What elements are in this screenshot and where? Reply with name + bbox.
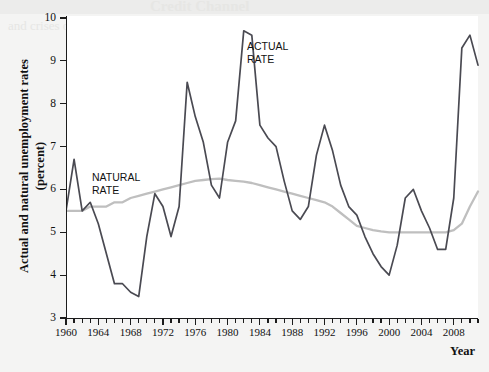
- y-axis-line: [66, 16, 67, 319]
- x-tick-label-1964: 1964: [87, 327, 109, 338]
- x-tick-1986: [275, 319, 276, 323]
- x-tick-1991: [316, 319, 317, 323]
- unemployment-rate-chart: 345678910 196019641968197219761980198419…: [0, 0, 489, 372]
- x-tick-1966: [114, 319, 115, 323]
- x-tick-label-1968: 1968: [120, 327, 142, 338]
- y-tick-9: [60, 60, 66, 61]
- x-tick-2002: [405, 319, 406, 323]
- x-tick-1974: [178, 319, 179, 323]
- x-tick-1970: [146, 319, 147, 323]
- x-tick-1973: [170, 319, 171, 323]
- x-tick-label-1988: 1988: [281, 327, 303, 338]
- x-tick-2005: [429, 319, 430, 323]
- y-tick-8: [60, 103, 66, 104]
- x-tick-1972: [162, 319, 163, 325]
- x-tick-label-1960: 1960: [55, 327, 77, 338]
- x-tick-1984: [259, 319, 260, 325]
- y-tick-4: [60, 275, 66, 276]
- x-tick-1971: [154, 319, 155, 323]
- natural-rate-annotation: NATURAL RATE: [92, 171, 140, 197]
- x-tick-1985: [267, 319, 268, 323]
- y-tick-5: [60, 232, 66, 233]
- x-tick-1996: [356, 319, 357, 325]
- actual-rate-annotation: ACTUAL RATE: [247, 40, 288, 66]
- x-tick-1981: [235, 319, 236, 323]
- x-axis-title: Year: [450, 344, 475, 359]
- x-tick-2003: [413, 319, 414, 323]
- x-tick-1998: [372, 319, 373, 323]
- x-tick-label-1996: 1996: [346, 327, 368, 338]
- x-tick-1993: [332, 319, 333, 323]
- x-tick-1961: [73, 319, 74, 323]
- x-tick-1990: [308, 319, 309, 323]
- y-tick-label-3: 3: [36, 312, 56, 324]
- x-tick-1965: [106, 319, 107, 323]
- x-tick-1992: [324, 319, 325, 325]
- x-tick-2009: [461, 319, 462, 323]
- x-tick-label-2000: 2000: [378, 327, 400, 338]
- x-tick-2004: [421, 319, 422, 325]
- x-tick-2007: [445, 319, 446, 323]
- x-tick-1975: [187, 319, 188, 323]
- x-tick-label-2008: 2008: [443, 327, 465, 338]
- x-tick-1978: [211, 319, 212, 323]
- x-tick-1999: [380, 319, 381, 323]
- x-tick-label-1972: 1972: [152, 327, 174, 338]
- x-tick-1989: [300, 319, 301, 323]
- x-tick-label-1980: 1980: [217, 327, 239, 338]
- x-tick-2010: [469, 319, 470, 323]
- y-tick-10: [60, 17, 66, 18]
- x-tick-1977: [203, 319, 204, 323]
- x-tick-1960: [65, 319, 66, 325]
- x-tick-1983: [251, 319, 252, 323]
- x-axis-line: [66, 318, 478, 319]
- x-tick-label-1992: 1992: [314, 327, 336, 338]
- x-tick-1976: [195, 319, 196, 325]
- x-tick-1988: [292, 319, 293, 325]
- x-tick-label-1976: 1976: [184, 327, 206, 338]
- x-tick-1964: [98, 319, 99, 325]
- x-tick-1997: [364, 319, 365, 323]
- y-tick-6: [60, 189, 66, 190]
- x-tick-1982: [243, 319, 244, 323]
- x-tick-1963: [90, 319, 91, 323]
- x-tick-1969: [138, 319, 139, 323]
- x-tick-1962: [82, 319, 83, 323]
- x-tick-label-1984: 1984: [249, 327, 271, 338]
- x-tick-1980: [227, 319, 228, 325]
- x-tick-2006: [437, 319, 438, 323]
- x-tick-1968: [130, 319, 131, 325]
- x-tick-1967: [122, 319, 123, 323]
- x-tick-2000: [389, 319, 390, 325]
- x-tick-2001: [397, 319, 398, 323]
- y-tick-7: [60, 146, 66, 147]
- y-tick-label-10: 10: [36, 12, 56, 24]
- x-tick-1995: [348, 319, 349, 323]
- y-axis-title: Actual and natural unemployment rates (p…: [16, 51, 48, 281]
- x-tick-label-2004: 2004: [410, 327, 432, 338]
- x-tick-2011: [477, 319, 478, 323]
- x-tick-1979: [219, 319, 220, 323]
- x-tick-1987: [284, 319, 285, 323]
- x-tick-1994: [340, 319, 341, 323]
- x-tick-2008: [453, 319, 454, 325]
